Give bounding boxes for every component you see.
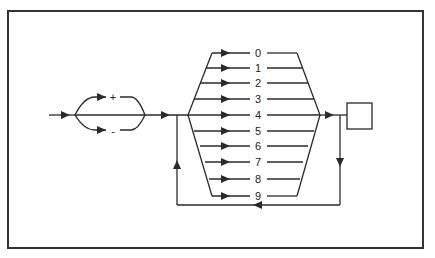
digit-arrow-icon [221,79,230,87]
loop-up-arrow-icon [173,160,181,169]
digit-arrow-icon [221,127,230,135]
digit-rows: 0 1 2 3 4 5 6 [188,47,320,202]
digit-label: 6 [255,140,261,152]
entry-arrow-icon [61,111,70,119]
loop-left-arrow-icon [253,201,262,209]
digit-arrow-icon [221,111,230,119]
digit-row-5: 5 [194,125,314,137]
digit-fan-right-edge [297,53,320,196]
digit-label: 4 [255,109,261,121]
digit-arrow-icon [221,64,230,72]
digit-label: 9 [255,190,261,202]
digit-arrow-icon [221,95,230,103]
digit-label: 0 [255,47,261,59]
minus-branch-right [120,115,145,130]
digit-arrow-icon [221,142,230,150]
connector-arrow-icon [161,111,170,119]
terminal-box [347,103,372,129]
digit-row-8: 8 [209,173,300,185]
digit-row-3: 3 [194,93,314,105]
plus-label: + [110,91,116,103]
minus-arrow-icon [97,126,106,134]
digit-label: 3 [255,93,261,105]
digit-row-7: 7 [205,156,303,168]
digit-row-2: 2 [200,77,308,89]
digit-label: 5 [255,125,261,137]
digit-label: 2 [255,77,261,89]
digit-fan-left-edge [188,53,212,196]
loop-down-arrow-icon [336,158,344,167]
plus-branch-left [75,97,106,115]
digit-row-9: 9 [212,190,297,202]
minus-branch-left [75,115,106,130]
output-arrow-icon [325,111,334,119]
plus-arrow-icon [97,93,106,101]
minus-label: - [111,125,115,137]
digit-row-0: 0 [212,47,297,59]
digit-row-6: 6 [200,140,308,152]
digit-label: 1 [255,62,261,74]
digit-row-4: 4 [188,109,320,121]
digit-label: 8 [255,173,261,185]
digit-arrow-icon [221,158,230,166]
digit-arrow-icon [221,175,230,183]
digit-row-1: 1 [206,62,303,74]
plus-branch-right [120,97,145,115]
digit-arrow-icon [221,192,230,200]
syntax-diagram: + - 0 1 2 3 [0,0,435,258]
digit-arrow-icon [221,49,230,57]
digit-label: 7 [255,156,261,168]
